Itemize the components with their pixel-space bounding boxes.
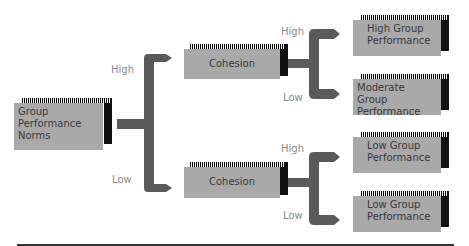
outcome-1-line-2: Performance	[367, 35, 437, 47]
root-line-3: Norms	[18, 130, 99, 142]
cohesion-high-branch-high: High	[281, 26, 304, 37]
cohesion-low-branch-low: Low	[283, 210, 303, 221]
branch-label-high: High	[111, 64, 134, 75]
outcome-4-line-2: Performance	[367, 211, 437, 223]
outcome-3-line-1: Low Group	[367, 140, 437, 152]
outcome-4-line-1: Low Group	[367, 199, 437, 211]
cohesion-low-label: Cohesion	[209, 176, 255, 187]
outcome-2-line-2: Performance	[357, 106, 437, 118]
root-line-1: Group	[18, 106, 99, 118]
outcome-3-line-2: Performance	[367, 152, 437, 164]
root-line-2: Performance	[18, 118, 99, 130]
cohesion-high-label: Cohesion	[209, 58, 255, 69]
cohesion-low-branch-high: High	[281, 143, 304, 154]
branch-label-low: Low	[112, 174, 132, 185]
cohesion-high-branch-low: Low	[283, 92, 303, 103]
outcome-2-line-1: Moderate Group	[357, 82, 437, 106]
outcome-1-line-1: High Group	[367, 23, 437, 35]
